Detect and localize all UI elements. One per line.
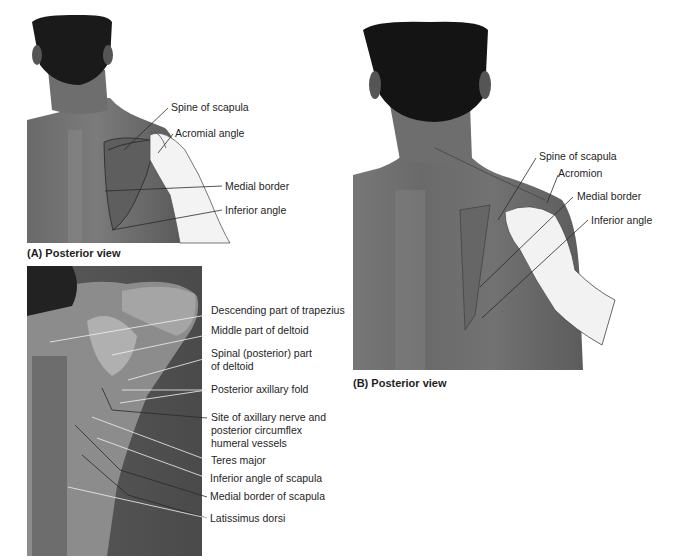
label-acromion: Acromion	[558, 167, 602, 179]
label-axillary-nerve-2: posterior circumflex	[211, 424, 302, 436]
label-acromial-angle: Acromial angle	[175, 127, 244, 139]
label-teres-major: Teres major	[211, 454, 266, 466]
label-spinal-deltoid-2: of deltoid	[211, 360, 254, 372]
label-latissimus-dorsi: Latissimus dorsi	[210, 512, 285, 524]
label-axillary-nerve-3: humeral vessels	[211, 437, 287, 449]
photo-posterior-shoulder-a	[0, 0, 340, 250]
caption-b: (B) Posterior view	[353, 377, 447, 389]
label-middle-deltoid: Middle part of deltoid	[211, 324, 308, 336]
photo-abducted-arm-c	[27, 266, 202, 556]
photo-posterior-shoulder-b	[340, 0, 685, 370]
label-medial-border-b: Medial border	[577, 190, 641, 202]
label-posterior-axillary-fold: Posterior axillary fold	[211, 383, 308, 395]
label-medial-border: Medial border	[225, 180, 289, 192]
label-spine-of-scapula: Spine of scapula	[171, 101, 249, 113]
label-inferior-angle-b: Inferior angle	[591, 214, 652, 226]
panel-a: Spine of scapula Acromial angle Medial b…	[0, 0, 340, 260]
label-inferior-angle-scapula: Inferior angle of scapula	[210, 472, 322, 484]
label-spinal-deltoid-1: Spinal (posterior) part	[211, 347, 312, 359]
label-medial-border-scapula: Medial border of scapula	[210, 490, 325, 502]
panel-b: Spine of scapula Acromion Medial border …	[340, 0, 685, 370]
label-spine-of-scapula-b: Spine of scapula	[539, 150, 617, 162]
panel-c: Descending part of trapezius Middle part…	[0, 260, 360, 560]
caption-a: (A) Posterior view	[27, 247, 121, 259]
label-axillary-nerve-1: Site of axillary nerve and	[211, 411, 326, 423]
label-inferior-angle: Inferior angle	[225, 204, 286, 216]
label-descending-trapezius: Descending part of trapezius	[211, 304, 345, 316]
